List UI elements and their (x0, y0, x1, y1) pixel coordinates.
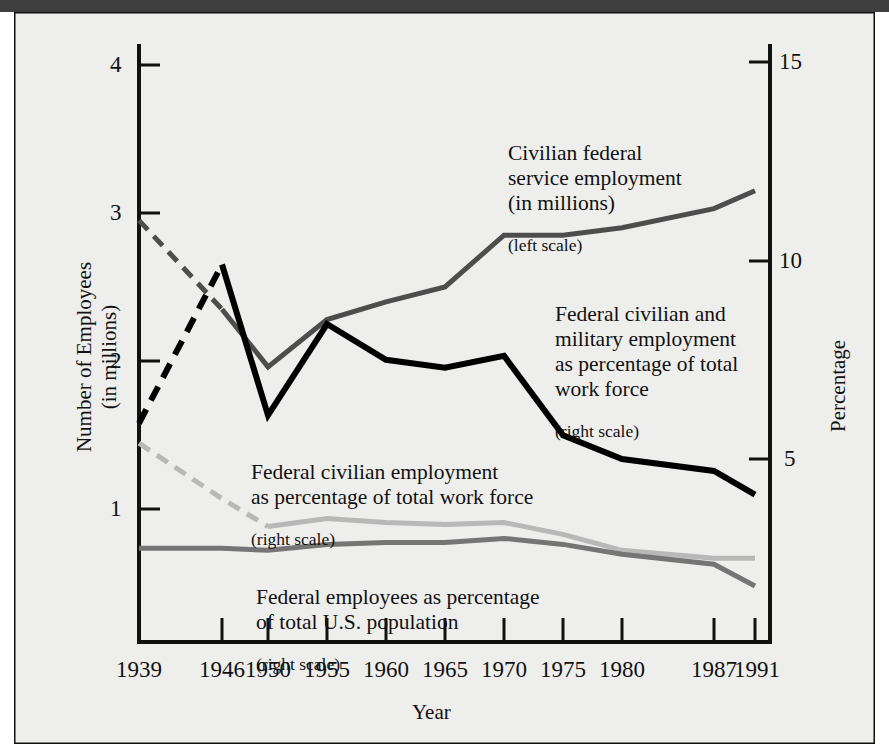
annotation-civilian-federal-service-employment: Civilian federal service employment (in … (508, 122, 682, 274)
annotation-main-text: Civilian federal service employment (in … (508, 141, 682, 216)
x-axis-title: Year (412, 700, 451, 725)
chart-figure: 4 3 2 1 15 10 5 Number of Employees (in … (14, 12, 875, 744)
figure-page: 4 3 2 1 15 10 5 Number of Employees (in … (0, 0, 889, 756)
annotation-scale-note: (right scale) (251, 529, 533, 549)
annotation-federal-civilian-and-military-employment: Federal civilian and military employment… (555, 283, 738, 460)
left-axis-title: Number of Employees (in millions) (72, 212, 122, 502)
x-tick-label-1946: 1946 (199, 657, 245, 683)
right-axis-title: Percentage (826, 340, 851, 432)
right-tick-label-10: 10 (779, 248, 802, 274)
x-tick-label-1991: 1991 (734, 657, 780, 683)
annotation-main-text: Federal civilian employment as percentag… (251, 460, 533, 510)
annotation-federal-civilian-employment: Federal civilian employment as percentag… (251, 441, 533, 568)
x-tick-label-1980: 1980 (599, 657, 645, 683)
annotation-scale-note: (right scale) (555, 421, 738, 441)
x-tick-label-1939: 1939 (116, 657, 162, 683)
annotation-scale-note: (right scale) (256, 654, 540, 674)
right-tick-label-5: 5 (784, 446, 796, 472)
annotation-main-text: Federal employees as percentage of total… (256, 585, 540, 635)
right-tick-label-15: 15 (779, 49, 802, 75)
annotation-main-text: Federal civilian and military employment… (555, 302, 738, 403)
annotation-scale-note: (left scale) (508, 235, 682, 255)
page-top-bar (0, 0, 889, 12)
x-tick-label-1975: 1975 (540, 657, 586, 683)
x-tick-label-1987: 1987 (691, 657, 737, 683)
annotation-federal-employees-percent-population: Federal employees as percentage of total… (256, 566, 540, 693)
left-tick-label-4: 4 (110, 52, 122, 78)
